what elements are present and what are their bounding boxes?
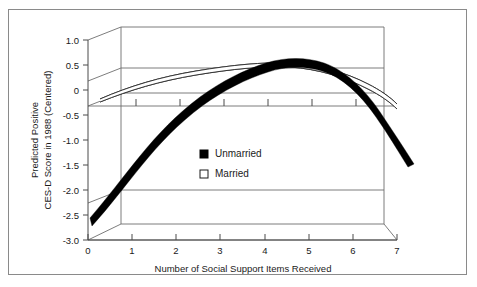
depth-connector-topleft: [88, 27, 121, 40]
legend-label-married: Married: [215, 168, 249, 179]
x-tick-label-4: 4: [262, 245, 267, 256]
y-tick-label-8: -3.0: [63, 235, 79, 246]
y-axis: 1.0 0.5 0 -0.5 -1.0 -1.5 -2.0 -2.5 -3.0: [63, 35, 88, 246]
x-tick-label-1: 1: [129, 245, 134, 256]
legend-marker-married-icon: [200, 170, 208, 178]
legend-label-unmarried: Unmarried: [215, 148, 262, 159]
depth-plane-ticks: [136, 99, 356, 106]
x-tick-label-7: 7: [394, 245, 399, 256]
x-tick-label-6: 6: [350, 245, 355, 256]
legend: Unmarried Married: [200, 148, 262, 179]
y-axis-title-line1: Predicted Positive: [29, 102, 40, 178]
x-tick-label-2: 2: [173, 245, 178, 256]
depth-connector-bottomright: [384, 224, 397, 240]
figure-page: 1.0 0.5 0 -0.5 -1.0 -1.5 -2.0 -2.5 -3.0 …: [0, 0, 477, 287]
x-tick-label-3: 3: [217, 245, 222, 256]
x-axis-title: Number of Social Support Items Received: [155, 263, 332, 274]
y-tick-label-6: -2.0: [63, 185, 79, 196]
y-tick-label-3: -0.5: [63, 110, 79, 121]
y-tick-label-7: -2.5: [63, 210, 79, 221]
y-axis-title: Predicted Positive CES-D Score in 1988 (…: [29, 71, 53, 210]
y-tick-label-2: 0: [74, 85, 79, 96]
y-tick-label-4: -1.0: [63, 135, 79, 146]
upper-plane-left-depth: [88, 68, 121, 81]
x-tick-label-5: 5: [306, 245, 311, 256]
x-axis: 0 1 2 3 4 5 6 7 Number of Social Support…: [85, 234, 399, 274]
x-tick-label-0: 0: [85, 245, 90, 256]
y-tick-label-0: 1.0: [66, 35, 79, 46]
depth-connector-bottomleft: [88, 224, 121, 240]
chart-canvas: 1.0 0.5 0 -0.5 -1.0 -1.5 -2.0 -2.5 -3.0 …: [0, 0, 477, 287]
legend-marker-unmarried-icon: [200, 150, 208, 158]
plot-3d-frame: [88, 27, 397, 240]
y-axis-title-line2: CES-D Score in 1988 (Centered): [42, 71, 53, 210]
y-tick-label-5: -1.5: [63, 160, 79, 171]
y-tick-label-1: 0.5: [66, 60, 79, 71]
